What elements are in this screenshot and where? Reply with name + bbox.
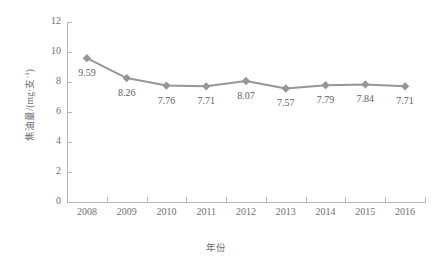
y-axis-tick-label: 2 — [56, 165, 61, 176]
y-axis-tick: 4 — [67, 142, 72, 143]
data-point-label: 7.71 — [377, 95, 432, 106]
y-axis-tick: 10 — [67, 52, 72, 53]
x-axis-line — [67, 202, 426, 203]
data-point-marker — [202, 82, 210, 90]
y-axis-title-tail: ) — [25, 69, 35, 72]
y-axis-title: 焦油量/(mg·支-1) — [16, 15, 38, 195]
plot-area: 0246810122008200920102011201220132014201… — [67, 22, 425, 202]
x-axis-tick — [385, 197, 386, 202]
y-axis-tick-label: 10 — [51, 45, 61, 56]
data-point-marker — [321, 81, 329, 89]
x-axis-tick — [67, 197, 68, 202]
y-axis-tick: 12 — [67, 22, 72, 23]
y-axis-tick: 8 — [67, 82, 72, 83]
x-axis-tick — [186, 197, 187, 202]
data-point-marker — [162, 81, 170, 89]
y-axis-tick: 2 — [67, 172, 72, 173]
x-axis-tick — [226, 197, 227, 202]
x-axis-tick — [345, 197, 346, 202]
x-axis-tick-label: 2016 — [377, 206, 432, 217]
y-axis-tick-label: 6 — [56, 105, 61, 116]
data-point-marker — [401, 82, 409, 90]
y-axis-title-superscript: -1 — [23, 72, 31, 78]
y-axis-tick: 0 — [67, 202, 72, 203]
tar-content-line-chart: 焦油量/(mg·支-1) 024681012200820092010201120… — [0, 0, 432, 268]
data-point-marker — [122, 74, 130, 82]
y-axis-title-main: 焦油量/(mg·支 — [25, 78, 35, 141]
x-axis-tick — [147, 197, 148, 202]
x-axis-tick — [306, 197, 307, 202]
x-axis-tick — [266, 197, 267, 202]
y-axis-tick-label: 12 — [51, 15, 61, 26]
data-point-marker — [361, 80, 369, 88]
y-axis-tick-label: 4 — [56, 135, 61, 146]
data-point-marker — [242, 77, 250, 85]
x-axis-tick — [425, 197, 426, 202]
series-line-and-markers — [67, 22, 425, 202]
x-axis-title: 年份 — [0, 240, 432, 254]
x-axis-tick — [107, 197, 108, 202]
data-point-marker — [83, 54, 91, 62]
data-point-marker — [282, 84, 290, 92]
y-axis-tick: 6 — [67, 112, 72, 113]
data-point-label: 9.59 — [59, 67, 115, 78]
y-axis-tick-label: 0 — [56, 195, 61, 206]
